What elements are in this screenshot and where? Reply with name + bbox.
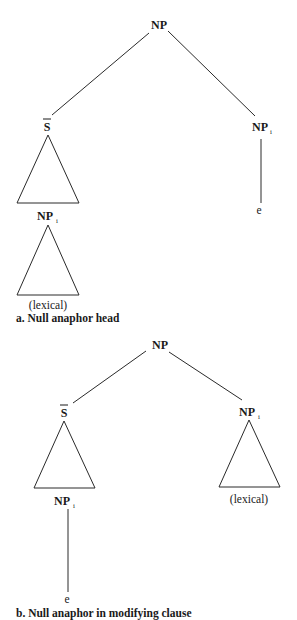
- tree-panel-b: NP S NP i e NP i (lexical) b. Null anaph…: [16, 338, 280, 620]
- tree-a-root-label: NP: [151, 18, 167, 32]
- tree-a-sbar-node: S: [43, 119, 51, 134]
- tree-a-embedded-np-node: NP i: [37, 209, 58, 225]
- tree-a-embedded-np-subscript: i: [56, 217, 58, 225]
- tree-a-empty-leaf: e: [256, 204, 261, 216]
- tree-b-right-np-subscript: i: [258, 413, 260, 421]
- tree-b-embedded-np-subscript: i: [73, 502, 75, 510]
- tree-b-sbar-node: S: [60, 405, 68, 420]
- tree-a-right-np-node: NP i: [252, 120, 272, 136]
- tree-panel-a: NP S NP i (lexical) NP i e a. Null anaph…: [16, 18, 272, 325]
- tree-b-edge-root-left: [73, 351, 146, 403]
- tree-a-lexical-leaf: (lexical): [29, 299, 67, 312]
- tree-b-sbar-triangle: [34, 421, 95, 488]
- tree-a-caption: a. Null anaphor head: [16, 312, 120, 325]
- tree-b-right-np-label: NP: [239, 405, 255, 419]
- tree-b-lexical-leaf: (lexical): [230, 493, 268, 506]
- tree-b-right-np-triangle: [219, 420, 280, 487]
- tree-b-sbar-label: S: [61, 406, 68, 420]
- tree-a-embedded-np-triangle: [17, 225, 79, 295]
- tree-a-embedded-np-label: NP: [37, 209, 53, 223]
- tree-b-edge-root-right: [169, 352, 242, 400]
- tree-b-embedded-np-node: NP i: [54, 494, 75, 510]
- tree-a-sbar-label: S: [44, 120, 51, 134]
- tree-b-right-np-node: NP i: [239, 405, 260, 421]
- tree-b-caption: b. Null anaphor in modifying clause: [16, 607, 192, 620]
- tree-b-empty-leaf: e: [64, 593, 69, 605]
- tree-a-right-np-label: NP: [252, 120, 268, 134]
- syntax-tree-figure: NP S NP i (lexical) NP i e a. Null anaph…: [0, 0, 297, 620]
- tree-a-edge-root-right: [168, 31, 255, 116]
- tree-a-edge-root-left: [52, 33, 149, 115]
- tree-b-embedded-np-label: NP: [54, 494, 70, 508]
- tree-a-sbar-triangle: [17, 135, 79, 203]
- tree-a-right-np-subscript: i: [270, 128, 272, 136]
- tree-b-root-label: NP: [152, 338, 168, 352]
